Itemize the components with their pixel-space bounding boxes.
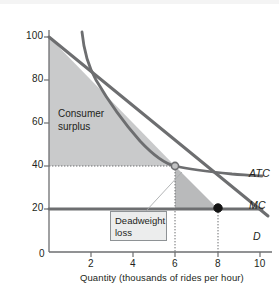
- y-tick-label-40: 40: [32, 159, 44, 170]
- deadweight-loss-callout-box: Deadweight loss: [110, 211, 167, 241]
- deadweight-label-line2: loss: [115, 227, 165, 239]
- x-tick-label-2: 2: [88, 258, 94, 269]
- y-tick-label-60: 60: [32, 116, 44, 127]
- x-tick-label-10: 10: [254, 258, 266, 269]
- deadweight-label-line1: Deadweight: [115, 215, 165, 227]
- economics-chart-figure: Price and cost (cents per ride) 100 80 6…: [0, 0, 279, 290]
- x-tick-label-6: 6: [172, 258, 178, 269]
- consumer-surplus-label-line2: surplus: [58, 121, 90, 134]
- y-tick-label-80: 80: [32, 73, 44, 84]
- x-tick-label-4: 4: [130, 258, 136, 269]
- efficient-outcome-point: [214, 204, 222, 212]
- y-tick-label-0: 0: [39, 248, 45, 259]
- consumer-surplus-label-line1: Consumer: [58, 108, 104, 121]
- deadweight-loss-callout-text: Deadweight loss: [115, 215, 165, 238]
- y-tick-label-100: 100: [26, 30, 43, 41]
- chart-plot-area: [0, 0, 279, 290]
- x-axis-title: Quantity (thousands of rides per hour): [80, 272, 244, 283]
- consumer-surplus-region: [49, 37, 175, 166]
- x-tick-label-8: 8: [215, 258, 221, 269]
- y-axis-ticks: [44, 37, 49, 209]
- monopoly-outcome-point: [171, 162, 178, 169]
- atc-curve-label: ATC: [249, 167, 270, 179]
- x-axis-ticks: [91, 252, 260, 257]
- demand-curve-label: D: [253, 230, 261, 242]
- mc-curve-label: MC: [249, 199, 266, 211]
- y-tick-label-20: 20: [32, 202, 44, 213]
